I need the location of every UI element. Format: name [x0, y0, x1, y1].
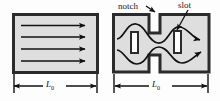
dimension-label-right: L0: [152, 80, 160, 91]
dimension-line-left: [14, 74, 97, 93]
notched-channel-drawing: [108, 0, 220, 101]
notch-callout-label: notch: [118, 2, 138, 11]
figure-two-panel-channel-schematic: L0: [0, 0, 220, 101]
panel-notched-slotted-channel: notch slot L0: [108, 0, 220, 101]
plain-channel-body: [14, 15, 98, 73]
slot-left: [131, 32, 138, 53]
slot-right: [174, 31, 181, 53]
dimension-line-right: [114, 74, 208, 93]
dimension-label-left: L0: [46, 80, 54, 91]
panel-plain-channel: L0: [0, 0, 108, 101]
slot-callout-label: slot: [178, 1, 191, 10]
notch-leader-line: [146, 6, 155, 12]
